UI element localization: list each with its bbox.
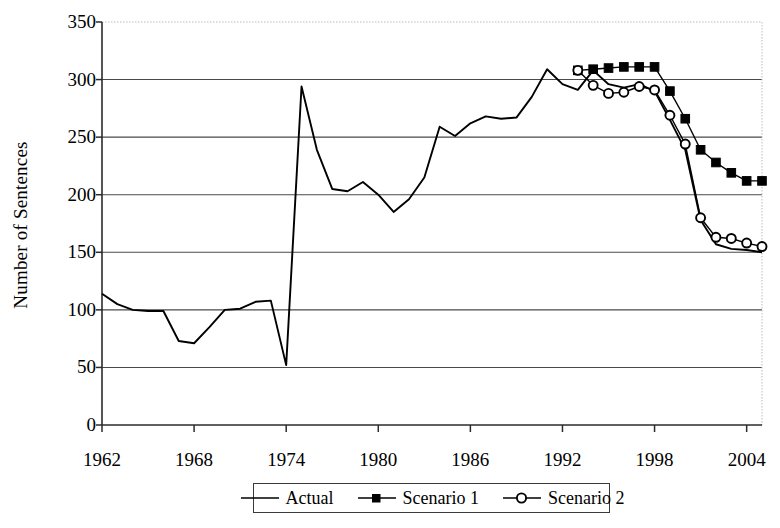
marker-open-circle	[573, 66, 582, 75]
chart-legend: Actual Scenario 1 Scenario 2	[253, 483, 610, 513]
y-tick-label-150: 150	[50, 242, 96, 261]
legend-label-actual: Actual	[286, 489, 334, 507]
marker-filled-square	[681, 114, 690, 123]
marker-filled-square	[620, 63, 629, 72]
legend-label-scenario-1: Scenario 1	[403, 489, 479, 507]
legend-item-actual: Actual	[239, 489, 334, 507]
x-tick-label-1998: 1998	[625, 450, 685, 469]
marker-filled-square	[758, 177, 767, 186]
y-tick-label-200: 200	[50, 185, 96, 204]
marker-open-circle	[604, 89, 613, 98]
series-line-scenario-1	[578, 67, 762, 181]
legend-line-icon	[239, 491, 281, 505]
x-tick-label-2004: 2004	[717, 450, 777, 469]
x-tick-label-1968: 1968	[164, 450, 224, 469]
marker-open-circle	[696, 213, 705, 222]
marker-filled-square	[727, 169, 736, 178]
legend-open-circle-icon	[501, 491, 543, 505]
y-axis-title: Number of Sentences	[4, 10, 38, 440]
marker-open-circle	[681, 140, 690, 149]
x-axis-tick-labels: 19621968197419801986199219982004	[0, 436, 780, 466]
marker-filled-square	[712, 158, 721, 167]
marker-filled-square	[604, 64, 613, 73]
marker-open-circle	[619, 88, 628, 97]
y-tick-label-100: 100	[50, 300, 96, 319]
x-tick-label-1986: 1986	[440, 450, 500, 469]
legend-item-scenario-2: Scenario 2	[501, 489, 624, 507]
x-tick-label-1980: 1980	[348, 450, 408, 469]
legend-item-scenario-1: Scenario 1	[356, 489, 479, 507]
y-tick-label-350: 350	[50, 12, 96, 31]
marker-open-circle	[665, 111, 674, 120]
x-tick-label-1992: 1992	[532, 450, 592, 469]
legend-label-scenario-2: Scenario 2	[548, 489, 624, 507]
marker-open-circle	[650, 85, 659, 94]
y-tick-label-50: 50	[50, 357, 96, 376]
marker-open-circle	[742, 239, 751, 248]
x-tick-label-1974: 1974	[256, 450, 316, 469]
y-tick-label-0: 0	[50, 415, 96, 434]
marker-open-circle	[711, 233, 720, 242]
x-tick-label-1962: 1962	[72, 450, 132, 469]
marker-open-circle	[589, 81, 598, 90]
legend-filled-square-icon	[356, 491, 398, 505]
marker-open-circle	[635, 82, 644, 91]
marker-filled-square	[635, 63, 644, 72]
marker-filled-square	[589, 65, 598, 74]
y-tick-label-300: 300	[50, 70, 96, 89]
y-tick-label-250: 250	[50, 127, 96, 146]
chart-figure: Number of Sentences 35030025020015010050…	[0, 0, 780, 528]
marker-filled-square	[650, 63, 659, 72]
marker-filled-square	[696, 146, 705, 155]
marker-open-circle	[758, 242, 767, 251]
marker-open-circle	[727, 234, 736, 243]
marker-filled-square	[666, 87, 675, 96]
series-line-actual	[102, 69, 762, 365]
marker-filled-square	[742, 177, 751, 186]
y-axis-tick-labels: 350300250200150100500	[40, 0, 96, 440]
